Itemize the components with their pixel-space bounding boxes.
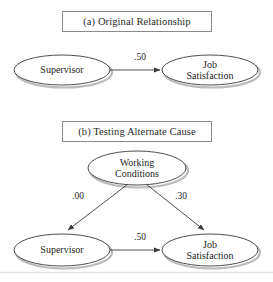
panel-a-title: (a) Original Relationship <box>62 11 212 32</box>
node-supervisor-a <box>14 55 112 88</box>
panel-b-title-text: (b) Testing Alternate Cause <box>78 126 196 137</box>
node-supervisor-b <box>14 234 112 269</box>
panel-a-title-text: (a) Original Relationship <box>83 16 190 27</box>
panel-b-title: (b) Testing Alternate Cause <box>62 121 212 142</box>
edge-label-supervisor-to-job-satisfaction-b: .50 <box>126 232 154 242</box>
node-working-conditions <box>88 151 188 188</box>
edge-label-working-conditions-to-supervisor: .00 <box>64 191 92 201</box>
path-diagram-figure: (a) Original Relationship Supervisor Job… <box>0 0 273 282</box>
edge-label-working-conditions-to-job-satisfaction: .30 <box>167 191 195 201</box>
node-job-satisfaction-a <box>162 55 260 88</box>
edge-label-supervisor-to-job-satisfaction-a: .50 <box>126 52 154 62</box>
node-job-satisfaction-b <box>162 234 260 269</box>
